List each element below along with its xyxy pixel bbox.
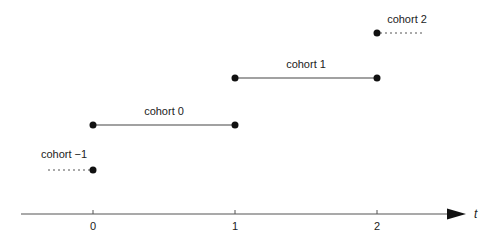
- cohort-point: [232, 75, 239, 82]
- cohort-point: [232, 122, 239, 129]
- tick-label-0: 0: [90, 220, 96, 232]
- cohort-point: [374, 30, 381, 37]
- cohort-timeline-diagram: t 0 1 2 cohort −1 cohort 0 cohort 1 coho…: [0, 0, 483, 239]
- cohort-2: cohort 2: [374, 13, 427, 37]
- axis-label: t: [474, 207, 478, 221]
- cohort-1: cohort 1: [232, 58, 381, 82]
- cohort-label: cohort 2: [387, 13, 427, 25]
- cohort-label: cohort 0: [144, 105, 184, 117]
- axis-arrowhead-icon: [447, 209, 466, 220]
- cohort-0: cohort 0: [90, 105, 239, 129]
- tick-label-2: 2: [374, 220, 380, 232]
- cohort-point: [90, 167, 97, 174]
- cohort-label: cohort −1: [41, 148, 87, 160]
- cohort-point: [374, 75, 381, 82]
- tick-label-1: 1: [232, 220, 238, 232]
- cohort-point: [90, 122, 97, 129]
- cohort-label: cohort 1: [286, 58, 326, 70]
- cohort-minus-1: cohort −1: [41, 148, 97, 174]
